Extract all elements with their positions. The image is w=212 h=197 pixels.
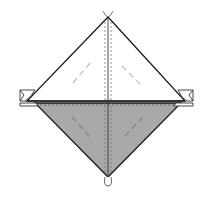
upper-triangle — [27, 17, 185, 101]
origami-diagram — [0, 0, 212, 197]
bottom-marker — [104, 177, 111, 186]
